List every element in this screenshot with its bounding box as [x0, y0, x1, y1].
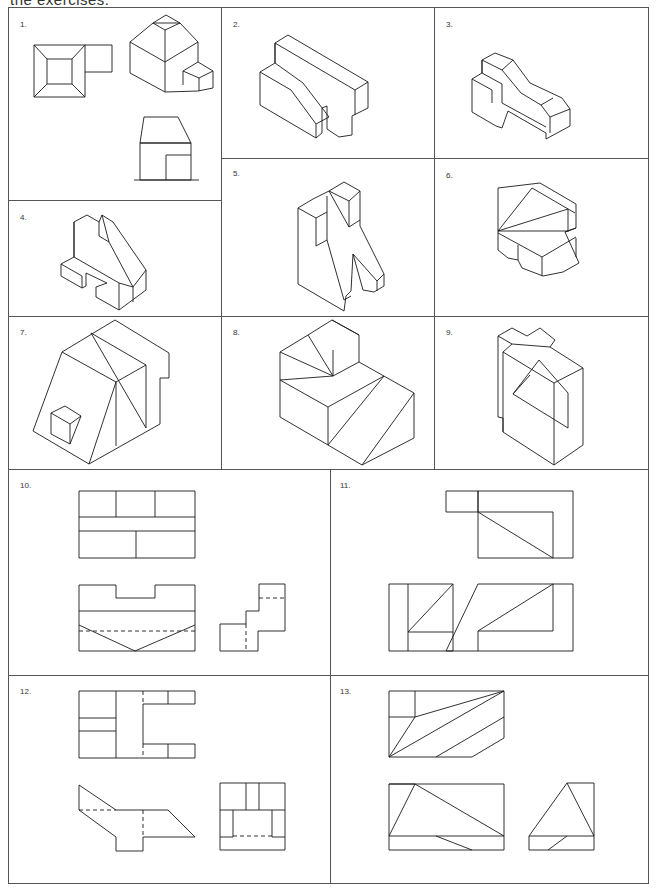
panel-2-label: 2. — [233, 20, 240, 29]
panel-10-label: 10. — [20, 481, 31, 490]
panel-3-label: 3. — [446, 20, 453, 29]
panel-8-drawing — [280, 320, 414, 465]
panel-1-drawing — [34, 15, 213, 180]
panel-7-drawing — [33, 320, 169, 464]
panel-3-drawing — [472, 53, 570, 139]
panel-11-label: 11. — [340, 481, 351, 490]
panel-9-label: 9. — [446, 328, 453, 337]
panel-10-drawing — [79, 491, 285, 651]
panel-4-drawing — [61, 215, 146, 310]
panel-12-drawing — [79, 691, 285, 851]
panel-9-drawing — [498, 328, 583, 465]
panel-1-label: 1. — [20, 20, 27, 29]
panel-13-drawing — [389, 691, 594, 850]
panel-13-label: 13. — [340, 687, 351, 696]
panel-7-label: 7. — [20, 328, 27, 337]
panel-11-drawing — [389, 491, 573, 651]
panel-4-label: 4. — [20, 213, 27, 222]
panel-5-label: 5. — [233, 169, 240, 178]
exercise-sheet — [0, 0, 661, 894]
panel-12-label: 12. — [20, 687, 31, 696]
panel-8-label: 8. — [233, 328, 240, 337]
panel-5-drawing — [298, 182, 384, 311]
panel-6-label: 6. — [446, 171, 453, 180]
panel-6-drawing — [498, 183, 579, 276]
panel-2-drawing — [260, 35, 368, 138]
